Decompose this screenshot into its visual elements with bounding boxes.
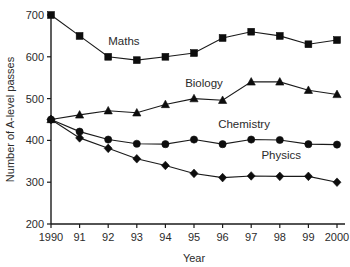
- data-point-square: [133, 57, 140, 64]
- data-point-diamond: [276, 172, 284, 181]
- data-point-diamond: [161, 161, 169, 170]
- y-axis-title: Number of A-level passes: [4, 56, 16, 182]
- data-point-circle: [248, 136, 255, 143]
- data-point-circle: [276, 136, 283, 143]
- data-point-square: [219, 35, 226, 42]
- y-tick-label: 700: [26, 9, 44, 21]
- data-point-triangle: [104, 106, 112, 114]
- data-point-square: [162, 53, 169, 60]
- data-point-circle: [162, 141, 169, 148]
- x-tick-label: 1990: [39, 231, 63, 243]
- data-point-square: [276, 33, 283, 40]
- y-tick-label: 200: [26, 218, 44, 230]
- x-tick-label: 98: [274, 231, 286, 243]
- data-point-diamond: [190, 169, 198, 178]
- data-point-circle: [133, 140, 140, 147]
- x-tick-label: 92: [102, 231, 114, 243]
- series-label-chemistry: Chemistry: [218, 118, 270, 130]
- data-point-square: [248, 28, 255, 35]
- data-point-square: [48, 12, 55, 19]
- data-point-diamond: [304, 172, 312, 181]
- series-label-biology: Biology: [185, 77, 223, 89]
- data-point-diamond: [219, 173, 227, 182]
- x-tick-label: 96: [216, 231, 228, 243]
- y-tick-label: 500: [26, 93, 44, 105]
- data-point-square: [76, 33, 83, 40]
- data-point-diamond: [247, 172, 255, 181]
- data-point-square: [105, 53, 112, 60]
- x-tick-label: 97: [245, 231, 257, 243]
- series-label-physics: Physics: [261, 149, 301, 161]
- line-chart: 2003004005006007001990919293949596979899…: [0, 0, 350, 267]
- data-point-square: [305, 41, 312, 48]
- x-tick-label: 93: [131, 231, 143, 243]
- data-point-diamond: [133, 154, 141, 163]
- x-tick-label: 94: [159, 231, 171, 243]
- data-point-circle: [305, 141, 312, 148]
- data-point-diamond: [104, 144, 112, 153]
- data-point-square: [334, 37, 341, 44]
- series-label-maths: Maths: [108, 35, 140, 47]
- y-tick-label: 400: [26, 134, 44, 146]
- data-point-diamond: [333, 178, 341, 187]
- x-tick-label: 95: [188, 231, 200, 243]
- y-tick-label: 600: [26, 51, 44, 63]
- x-tick-label: 91: [73, 231, 85, 243]
- chart-canvas: 2003004005006007001990919293949596979899…: [0, 0, 350, 267]
- data-point-circle: [190, 136, 197, 143]
- data-point-circle: [105, 136, 112, 143]
- data-point-circle: [219, 141, 226, 148]
- data-point-diamond: [76, 134, 84, 143]
- x-tick-label: 2000: [325, 231, 349, 243]
- data-point-circle: [333, 141, 340, 148]
- x-axis-title: Year: [183, 252, 206, 264]
- y-tick-label: 300: [26, 176, 44, 188]
- x-tick-label: 99: [302, 231, 314, 243]
- data-point-triangle: [190, 94, 198, 102]
- data-point-square: [191, 50, 198, 57]
